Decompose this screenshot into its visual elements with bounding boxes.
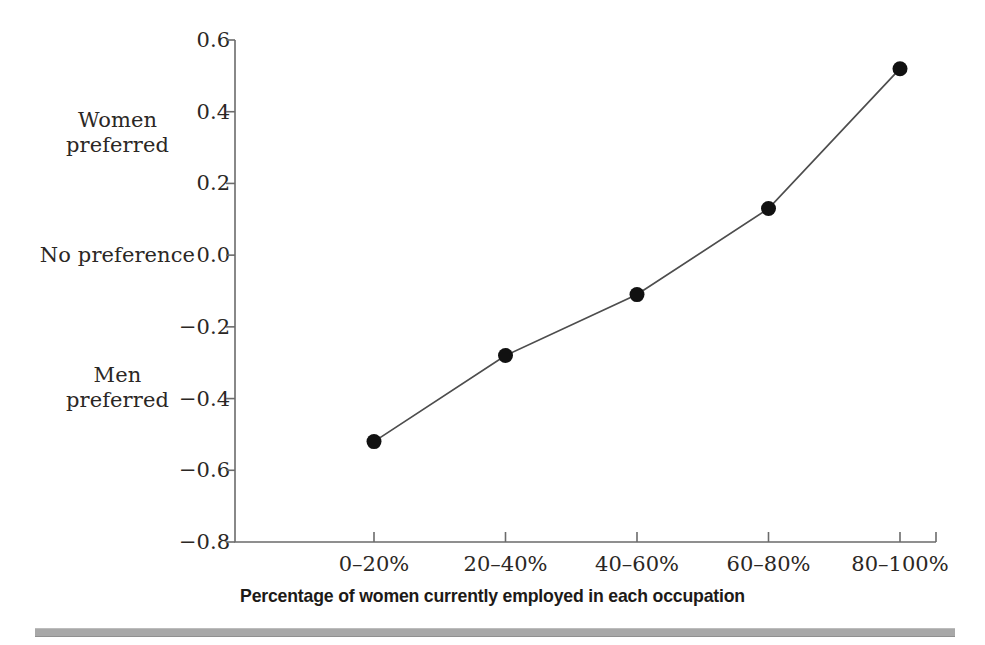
data-point-marker — [498, 348, 513, 363]
figure-container: Women preferred No preference Men prefer… — [0, 0, 985, 645]
data-point-marker — [367, 434, 382, 449]
axes — [226, 40, 936, 542]
data-series — [367, 61, 908, 449]
data-point-marker — [630, 287, 645, 302]
data-point-marker — [761, 201, 776, 216]
data-point-marker — [893, 61, 908, 76]
bottom-rule-divider — [35, 628, 955, 637]
plot-area — [0, 0, 985, 645]
x-axis-title: Percentage of women currently employed i… — [34, 585, 950, 607]
